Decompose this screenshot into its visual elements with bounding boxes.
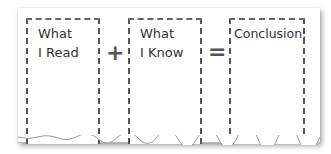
plus-sign: + xyxy=(106,42,124,64)
what-i-read-box: What I Read xyxy=(26,18,100,144)
what-i-know-box: What I Know xyxy=(128,18,202,144)
what-i-know-label: What I Know xyxy=(140,24,183,62)
paper-card: What I Read + What I Know = Conclusion: xyxy=(18,8,320,143)
what-i-read-label: What I Read xyxy=(38,24,79,62)
conclusion-label: Conclusion: xyxy=(234,24,306,43)
torn-edge xyxy=(18,135,320,145)
conclusion-box: Conclusion: xyxy=(229,18,305,144)
equals-sign: = xyxy=(208,41,226,63)
